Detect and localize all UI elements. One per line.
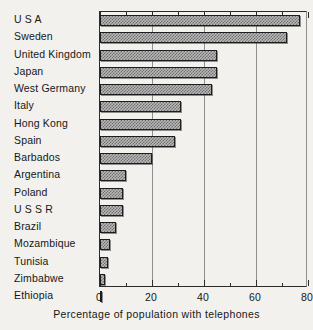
x-tick-label: 40: [197, 291, 209, 303]
axis-tick: [308, 280, 309, 286]
axis-tick: [308, 12, 309, 18]
bar-row: [100, 236, 306, 253]
telephone-penetration-bar-chart: U S ASwedenUnited KingdomJapanWest Germa…: [0, 0, 313, 330]
category-axis-labels: U S ASwedenUnited KingdomJapanWest Germa…: [0, 11, 93, 287]
bar: [100, 32, 287, 43]
bar: [100, 239, 110, 250]
bar: [100, 15, 300, 26]
bar: [100, 274, 105, 285]
bar-row: [100, 202, 306, 219]
bar-row: [100, 254, 306, 271]
category-label: U S S R: [0, 201, 93, 218]
bar-row: [100, 219, 306, 236]
bars-layer: [100, 12, 306, 286]
bar: [100, 257, 108, 268]
category-label: Italy: [0, 97, 93, 114]
bar: [100, 67, 217, 78]
bar: [100, 136, 175, 147]
bar: [100, 205, 123, 216]
category-label: Mozambique: [0, 235, 93, 252]
x-tick-label: 60: [249, 291, 261, 303]
category-label: Ethiopia: [0, 287, 93, 304]
bar-row: [100, 167, 306, 184]
bar: [100, 84, 212, 95]
bar: [100, 188, 123, 199]
category-label: Japan: [0, 63, 93, 80]
bar-row: [100, 81, 306, 98]
category-label: Poland: [0, 184, 93, 201]
category-label: U S A: [0, 11, 93, 28]
bar: [100, 101, 181, 112]
x-axis-tick-labels: 020406080: [99, 291, 307, 305]
bar-row: [100, 29, 306, 46]
x-axis-title: Percentage of population with telephones: [0, 308, 313, 320]
category-label: Brazil: [0, 218, 93, 235]
bar: [100, 119, 181, 130]
bar-row: [100, 271, 306, 288]
bar-row: [100, 150, 306, 167]
category-label: Sweden: [0, 28, 93, 45]
bar-row: [100, 47, 306, 64]
bar: [100, 153, 152, 164]
category-label: Hong Kong: [0, 115, 93, 132]
bar-row: [100, 116, 306, 133]
bar: [100, 50, 217, 61]
plot-area: [99, 11, 307, 287]
category-label: West Germany: [0, 80, 93, 97]
category-label: Argentina: [0, 166, 93, 183]
bar-row: [100, 185, 306, 202]
bar: [100, 170, 126, 181]
category-label: Spain: [0, 132, 93, 149]
x-tick-label: 20: [145, 291, 157, 303]
bar-row: [100, 133, 306, 150]
bar-row: [100, 98, 306, 115]
bar: [100, 222, 116, 233]
category-label: Barbados: [0, 149, 93, 166]
category-label: Tunisia: [0, 253, 93, 270]
bar-row: [100, 64, 306, 81]
bar-row: [100, 12, 306, 29]
category-label: United Kingdom: [0, 46, 93, 63]
x-tick-label: 80: [301, 291, 313, 303]
category-label: Zimbabwe: [0, 270, 93, 287]
x-tick-label: 0: [96, 291, 102, 303]
